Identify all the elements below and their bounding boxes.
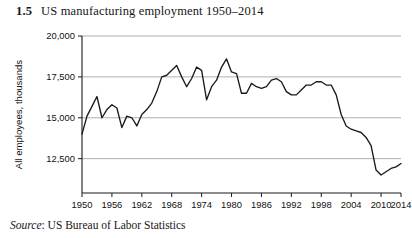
x-tick-label: 1962 bbox=[131, 199, 152, 210]
source-label: Source bbox=[10, 219, 42, 231]
x-tick-label: 1974 bbox=[191, 199, 212, 210]
chart-container: 12,50015,00017,50020,0001950195619621968… bbox=[0, 22, 412, 212]
x-tick-label: 1956 bbox=[101, 199, 122, 210]
y-axis-title: All employees, thousands bbox=[13, 60, 24, 170]
figure-number: 1.5 bbox=[16, 4, 32, 18]
y-tick-label: 15,000 bbox=[46, 112, 75, 123]
x-tick-label: 1980 bbox=[221, 199, 242, 210]
x-tick-label: 2010 bbox=[371, 199, 392, 210]
source-separator: : bbox=[42, 219, 45, 231]
figure-page: 1.5US manufacturing employment 1950–2014… bbox=[0, 0, 412, 238]
y-tick-label: 12,500 bbox=[46, 153, 75, 164]
x-tick-label: 1992 bbox=[281, 199, 302, 210]
line-chart: 12,50015,00017,50020,0001950195619621968… bbox=[0, 22, 412, 212]
y-tick-label: 17,500 bbox=[46, 71, 75, 82]
x-tick-label: 2014 bbox=[391, 199, 412, 210]
x-tick-label: 1968 bbox=[161, 199, 182, 210]
source-text: US Bureau of Labor Statistics bbox=[48, 219, 186, 231]
x-tick-label: 1950 bbox=[72, 199, 93, 210]
x-tick-label: 2004 bbox=[341, 199, 362, 210]
x-tick-label: 1986 bbox=[251, 199, 272, 210]
y-tick-label: 20,000 bbox=[46, 30, 75, 41]
source-note: Source: US Bureau of Labor Statistics bbox=[10, 219, 186, 231]
figure-title-text: US manufacturing employment 1950–2014 bbox=[41, 4, 264, 18]
x-tick-label: 1998 bbox=[311, 199, 332, 210]
data-series-line bbox=[82, 59, 401, 175]
figure-title: 1.5US manufacturing employment 1950–2014 bbox=[16, 4, 406, 19]
